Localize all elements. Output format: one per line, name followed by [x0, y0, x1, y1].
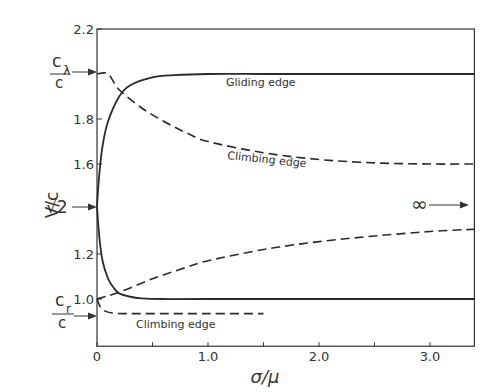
y-tick-label: 1.2 [73, 247, 94, 262]
c-r-numerator: c [55, 290, 64, 310]
gliding-edge-curve [97, 206, 474, 299]
x-tick-label: 3.0 [420, 349, 441, 364]
c-lambda-marker: c λ c [50, 51, 97, 92]
sqrt2-label: √2 [46, 197, 68, 217]
sqrt2-marker: √2 [46, 197, 97, 217]
infinity-marker: ∞ [411, 192, 469, 216]
y-tick-label: 1.8 [73, 112, 94, 127]
infinity-symbol: ∞ [411, 192, 428, 216]
chart: 01.02.03.01.01.21.61.82.2 V/c σ/μ c λ c … [0, 0, 498, 392]
gliding-edge-curve [97, 74, 474, 206]
climbing-edge-curve [97, 229, 474, 299]
climbing-edge-label-upper: Climbing edge [227, 149, 308, 170]
c-lambda-numerator: c [52, 51, 61, 71]
c-lambda-subscript: λ [63, 63, 71, 78]
c-r-denominator: c [58, 314, 66, 332]
gliding-edge-label: Gliding edge [226, 76, 296, 89]
climbing-edge-curve [97, 299, 264, 314]
y-tick-label: 2.2 [73, 22, 94, 37]
y-tick-label: 1.6 [73, 157, 94, 172]
climbing-edge-label-lower: Climbing edge [136, 318, 216, 331]
x-tick-label: 2.0 [309, 349, 330, 364]
x-tick-label: 0 [93, 349, 101, 364]
x-axis-label: σ/μ [251, 366, 280, 387]
c-lambda-denominator: c [55, 74, 63, 92]
x-tick-label: 1.0 [198, 349, 219, 364]
y-tick-label: 1.0 [73, 292, 94, 307]
